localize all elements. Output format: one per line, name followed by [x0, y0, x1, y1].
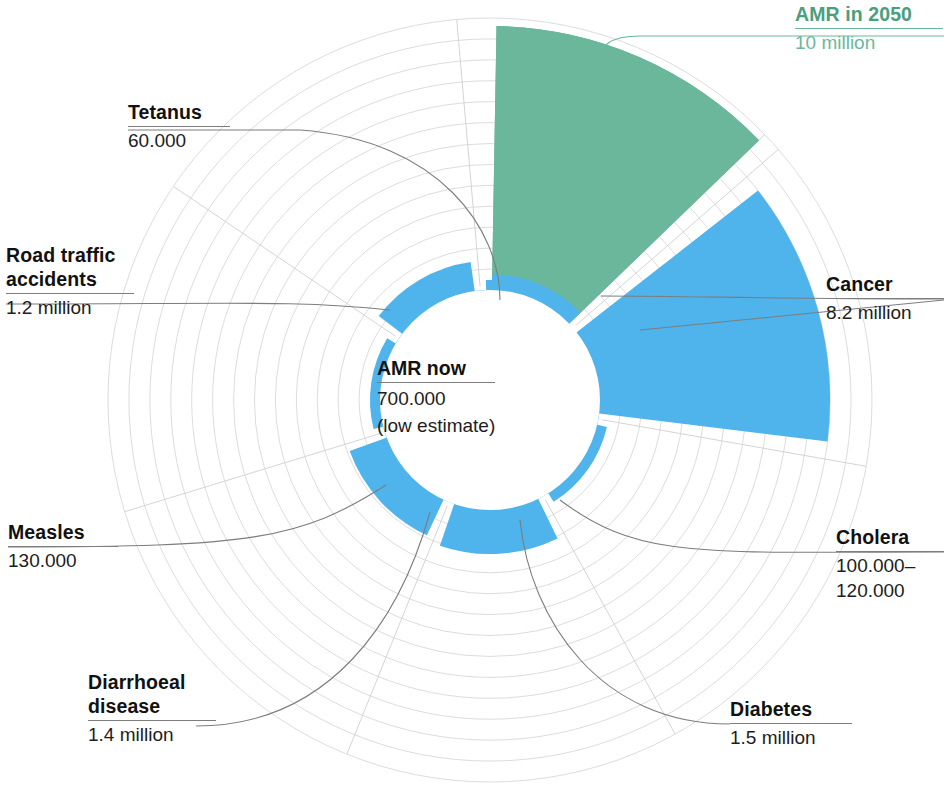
label-cholera-rule [836, 551, 944, 552]
grid-spoke [457, 19, 480, 286]
label-measles: Measles 130.000 [8, 520, 118, 573]
leader-diabetes [520, 520, 730, 724]
label-amr-2050: AMR in 2050 10 million [795, 2, 943, 55]
label-cholera-value-line1: 100.000– [836, 553, 944, 578]
label-road-traffic-rule [6, 293, 134, 294]
label-tetanus-caption: Tetanus [128, 100, 230, 124]
label-amr-2050-rule [795, 28, 943, 29]
grid-spoke [173, 186, 395, 336]
label-road-traffic-caption-line1: Road traffic [6, 243, 134, 267]
label-cancer-caption: Cancer [826, 272, 944, 296]
grid-spoke [347, 506, 447, 754]
label-amr-2050-caption: AMR in 2050 [795, 2, 943, 26]
label-amr-2050-value: 10 million [795, 30, 943, 55]
label-cholera-value-line2: 120.000 [836, 578, 944, 603]
label-tetanus: Tetanus 60.000 [128, 100, 230, 153]
label-diabetes: Diabetes 1.5 million [730, 697, 852, 750]
label-cancer-value: 8.2 million [826, 300, 944, 325]
label-measles-caption: Measles [8, 520, 118, 544]
label-diabetes-rule [730, 723, 852, 724]
center-value: 700.000 [377, 385, 557, 412]
label-measles-value: 130.000 [8, 548, 118, 573]
label-cholera: Cholera 100.000– 120.000 [836, 525, 944, 603]
label-diarrhoeal: Diarrhoeal disease 1.4 million [88, 670, 216, 747]
label-cancer: Cancer 8.2 million [826, 272, 944, 325]
label-tetanus-value: 60.000 [128, 128, 230, 153]
center-note-text: (low estimate) [377, 412, 557, 439]
center-rule [377, 382, 495, 383]
grid-spoke [125, 433, 381, 511]
label-road-traffic: Road traffic accidents 1.2 million [6, 243, 134, 320]
label-diarrhoeal-rule [88, 720, 216, 721]
radial-chart: AMR in 2050 10 million Cancer 8.2 millio… [0, 0, 944, 802]
label-diarrhoeal-caption-line2: disease [88, 694, 216, 718]
label-cancer-rule [826, 298, 944, 299]
center-caption: AMR now [377, 356, 557, 380]
center-annotation: AMR now 700.000 (low estimate) [377, 356, 557, 439]
label-measles-rule [8, 546, 118, 547]
label-diabetes-caption: Diabetes [730, 697, 852, 721]
label-road-traffic-value: 1.2 million [6, 295, 134, 320]
grid-spoke [545, 500, 675, 734]
label-diarrhoeal-caption-line1: Diarrhoeal [88, 670, 216, 694]
label-road-traffic-caption-line2: accidents [6, 267, 134, 291]
label-diabetes-value: 1.5 million [730, 725, 852, 750]
label-tetanus-rule [128, 126, 230, 127]
label-diarrhoeal-value: 1.4 million [88, 722, 216, 747]
label-cholera-caption: Cholera [836, 525, 944, 549]
